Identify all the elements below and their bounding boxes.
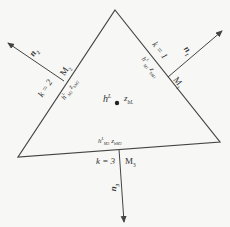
edge-3-n-label: n3 xyxy=(109,183,119,191)
center-point xyxy=(115,101,119,105)
center-h-label: hL xyxy=(103,94,111,104)
triangle-diagram xyxy=(0,0,230,227)
edge-3-values-label: hLM3 zbM3 xyxy=(98,138,122,145)
edge-3-k-label: k = 3 xyxy=(96,157,115,166)
center-z-label: zbL xyxy=(124,94,133,103)
normal-arrow-1 xyxy=(168,31,222,77)
edge-3-m-label: M3 xyxy=(125,157,136,166)
